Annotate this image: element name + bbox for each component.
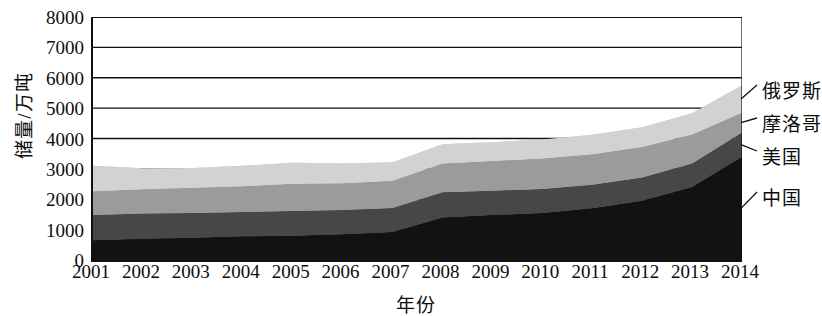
y-axis-tick-label: 2000 xyxy=(24,190,84,209)
y-axis-tick-label: 8000 xyxy=(24,8,84,27)
series-callout-label: 中国 xyxy=(762,189,802,208)
x-axis-tick-label: 2006 xyxy=(322,262,360,283)
y-axis-tick-label: 7000 xyxy=(24,38,84,57)
x-axis-tick-label: 2008 xyxy=(421,262,459,283)
x-axis-tick-labels: 2001200220032004200520062007200820092010… xyxy=(91,262,740,288)
series-callout-label: 俄罗斯 xyxy=(762,82,822,101)
y-axis-tick-label: 1000 xyxy=(24,220,84,239)
x-axis-tick-label: 2013 xyxy=(671,262,709,283)
x-axis-tick-label: 2004 xyxy=(222,262,260,283)
y-axis-tick-label: 6000 xyxy=(24,68,84,87)
callout-leader-line xyxy=(741,118,757,123)
x-axis-title: 年份 xyxy=(91,290,740,316)
y-axis-tick-label: 3000 xyxy=(24,159,84,178)
series-callout-label: 摩洛哥 xyxy=(762,115,822,134)
x-axis-tick-label: 2012 xyxy=(621,262,659,283)
callout-leader-line xyxy=(741,192,757,208)
x-axis-tick-label: 2014 xyxy=(721,262,759,283)
series-callout-label: 美国 xyxy=(762,148,802,167)
callout-leader-line xyxy=(741,85,757,99)
x-axis-tick-label: 2009 xyxy=(471,262,509,283)
plot-svg xyxy=(93,17,742,260)
y-axis-tick-label: 4000 xyxy=(24,129,84,148)
x-axis-tick-label: 2011 xyxy=(572,262,609,283)
x-axis-tick-label: 2010 xyxy=(521,262,559,283)
x-axis-tick-label: 2003 xyxy=(172,262,210,283)
callout-leader-line xyxy=(741,145,757,151)
x-axis-tick-label: 2001 xyxy=(72,262,110,283)
x-axis-tick-label: 2002 xyxy=(122,262,160,283)
x-axis-tick-label: 2007 xyxy=(372,262,410,283)
x-axis-tick-label: 2005 xyxy=(272,262,310,283)
y-axis-tick-label: 5000 xyxy=(24,99,84,118)
plot-area xyxy=(91,17,742,262)
